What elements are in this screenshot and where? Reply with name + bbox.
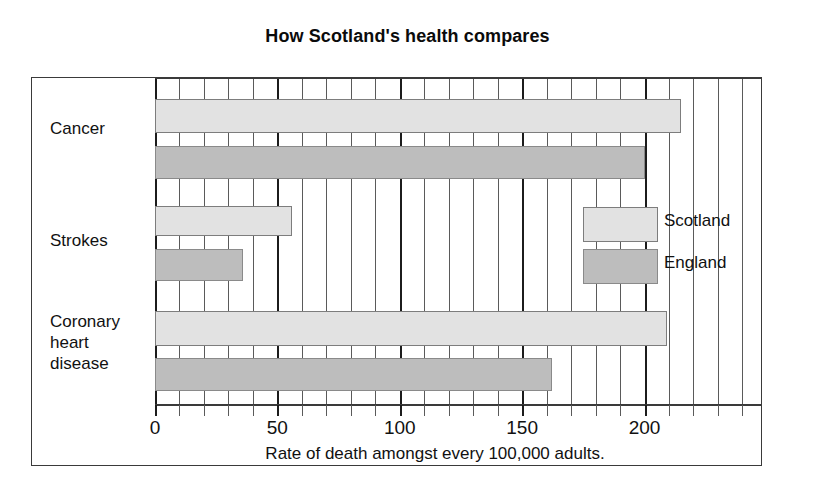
tick-major <box>277 405 279 416</box>
tick-minor <box>424 405 425 416</box>
tick-minor <box>669 405 670 416</box>
bar-england-1 <box>155 146 645 179</box>
bar-england-3 <box>155 358 552 391</box>
tick-minor <box>449 405 450 416</box>
tick-label-50: 50 <box>267 417 288 439</box>
tick-minor <box>547 405 548 416</box>
axis-tick-strip <box>155 405 762 416</box>
legend-swatch-england <box>583 249 658 284</box>
legend-label-scotland: Scotland <box>664 211 730 231</box>
bar-scotland-2 <box>155 206 292 236</box>
tick-minor <box>742 405 743 416</box>
tick-minor <box>693 405 694 416</box>
gridline-minor <box>718 79 719 404</box>
plot-area <box>155 78 762 405</box>
category-label-strokes: Strokes <box>50 230 108 251</box>
tick-minor <box>204 405 205 416</box>
gridline-minor <box>742 79 743 404</box>
tick-minor <box>473 405 474 416</box>
chart-page: How Scotland's health compares Cancer St… <box>0 0 815 487</box>
bar-scotland-1 <box>155 99 681 133</box>
tick-minor <box>375 405 376 416</box>
bar-england-2 <box>155 249 243 281</box>
tick-major <box>155 405 157 416</box>
tick-major <box>400 405 402 416</box>
gridline-minor <box>693 79 694 404</box>
tick-label-100: 100 <box>384 417 416 439</box>
tick-minor <box>302 405 303 416</box>
legend-swatch-scotland <box>583 207 658 242</box>
x-axis-title: Rate of death amongst every 100,000 adul… <box>155 444 715 464</box>
tick-major <box>645 405 647 416</box>
tick-minor <box>596 405 597 416</box>
legend-label-england: England <box>664 253 726 273</box>
tick-label-0: 0 <box>150 417 161 439</box>
tick-minor <box>351 405 352 416</box>
tick-minor <box>228 405 229 416</box>
tick-minor <box>620 405 621 416</box>
tick-minor <box>718 405 719 416</box>
category-label-cancer: Cancer <box>50 118 105 139</box>
bar-scotland-3 <box>155 311 667 346</box>
tick-minor <box>179 405 180 416</box>
tick-minor <box>571 405 572 416</box>
tick-label-200: 200 <box>629 417 661 439</box>
tick-minor <box>253 405 254 416</box>
tick-major <box>522 405 524 416</box>
tick-label-150: 150 <box>506 417 538 439</box>
category-label-coronary-heart-disease: Coronary heart disease <box>50 311 120 374</box>
tick-minor <box>326 405 327 416</box>
tick-minor <box>498 405 499 416</box>
chart-title: How Scotland's health compares <box>0 26 815 47</box>
